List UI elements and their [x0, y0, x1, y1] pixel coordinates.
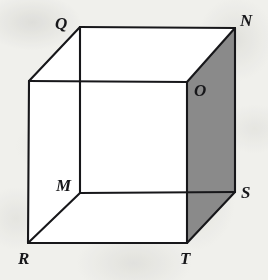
vertex-label-M: M: [56, 177, 71, 194]
vertex-label-N: N: [240, 12, 252, 29]
cube-drawing: [0, 0, 268, 280]
vertex-label-Q: Q: [55, 15, 67, 32]
cube-figure: Q N O M S R T: [0, 0, 268, 280]
edge-MS: [80, 192, 235, 193]
vertex-label-R: R: [18, 250, 29, 267]
edge-RP: [28, 81, 29, 243]
vertex-label-T: T: [180, 250, 190, 267]
edge-PO: [29, 81, 187, 82]
edge-QN: [80, 27, 235, 28]
vertex-label-O: O: [194, 82, 206, 99]
vertex-label-S: S: [241, 184, 250, 201]
